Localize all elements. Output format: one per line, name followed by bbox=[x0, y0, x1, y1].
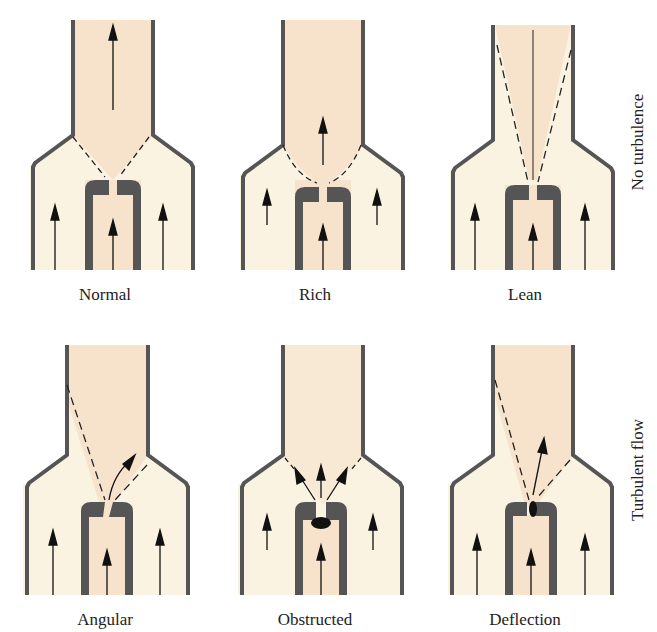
panel-deflection: Deflection bbox=[425, 340, 625, 632]
caption-lean: Lean bbox=[425, 285, 625, 305]
burner-lean-diagram bbox=[425, 15, 625, 275]
panel-rich: Rich bbox=[215, 15, 415, 315]
caption-deflection: Deflection bbox=[425, 610, 625, 630]
row-label-no-turbulence: No turbulence bbox=[628, 87, 648, 197]
panel-obstructed: Obstructed bbox=[215, 340, 415, 632]
panel-lean: Lean bbox=[425, 15, 625, 315]
caption-angular: Angular bbox=[5, 610, 205, 630]
panel-angular: Angular bbox=[5, 340, 205, 632]
caption-rich: Rich bbox=[215, 285, 415, 305]
burner-obstructed-diagram bbox=[215, 340, 415, 600]
burner-angular-diagram bbox=[5, 340, 205, 600]
burner-rich-diagram bbox=[215, 15, 415, 275]
row-label-turbulent-flow: Turbulent flow bbox=[628, 415, 648, 525]
burner-normal-diagram bbox=[5, 15, 205, 275]
caption-obstructed: Obstructed bbox=[215, 610, 415, 630]
caption-normal: Normal bbox=[5, 285, 205, 305]
panel-normal: Normal bbox=[5, 15, 205, 315]
burner-deflection-diagram bbox=[425, 340, 625, 600]
